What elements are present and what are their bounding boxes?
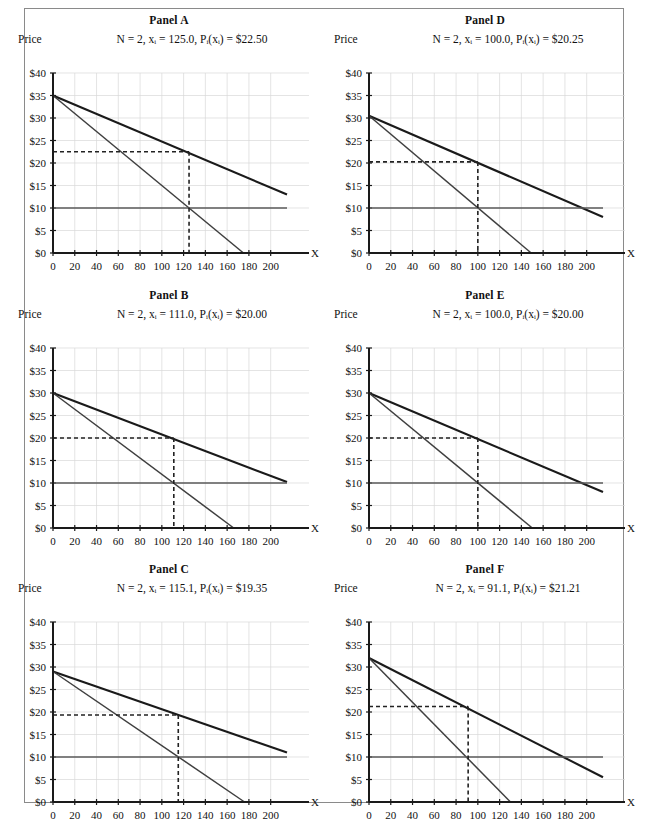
y-tick-label: $20 xyxy=(346,706,363,718)
plot-area: $40$35$30$25$20$15$10$5$0020406080100120… xyxy=(330,289,640,551)
x-tick-label: 20 xyxy=(69,809,81,821)
x-tick-label: 60 xyxy=(429,260,441,272)
x-tick-label: 160 xyxy=(535,260,552,272)
plot-area: $40$35$30$25$20$15$10$5$0020406080100120… xyxy=(330,14,640,276)
y-tick-label: $35 xyxy=(346,365,363,377)
x-tick-label: 0 xyxy=(366,535,372,547)
marginal-revenue-line xyxy=(369,116,531,253)
y-tick-label: $10 xyxy=(30,202,47,214)
x-tick-label: 0 xyxy=(366,260,372,272)
x-tick-label: 100 xyxy=(154,535,171,547)
panel-a: Panel AN = 2, xᵢ = 125.0, Pᵢ(xᵢ) = $22.5… xyxy=(14,14,324,276)
x-tick-label: 0 xyxy=(366,809,372,821)
x-tick-label: 100 xyxy=(470,535,487,547)
y-tick-label: $20 xyxy=(30,432,47,444)
y-tick-label: $10 xyxy=(346,751,363,763)
x-axis-title: X xyxy=(311,247,319,259)
x-tick-label: 200 xyxy=(262,535,279,547)
x-tick-label: 160 xyxy=(219,535,236,547)
x-tick-label: 180 xyxy=(557,809,574,821)
y-tick-label: $20 xyxy=(346,432,363,444)
x-tick-label: 40 xyxy=(91,809,103,821)
y-tick-label: $20 xyxy=(30,706,47,718)
x-tick-label: 120 xyxy=(491,809,508,821)
x-tick-label: 200 xyxy=(578,260,595,272)
x-tick-label: 140 xyxy=(197,260,214,272)
x-tick-label: 180 xyxy=(557,535,574,547)
x-tick-label: 60 xyxy=(429,809,441,821)
y-tick-label: $30 xyxy=(30,387,47,399)
x-tick-label: 80 xyxy=(135,260,147,272)
y-tick-label: $15 xyxy=(346,729,363,741)
x-tick-label: 140 xyxy=(513,260,530,272)
x-tick-label: 140 xyxy=(513,809,530,821)
x-tick-label: 140 xyxy=(197,809,214,821)
x-tick-label: 100 xyxy=(154,809,171,821)
x-tick-label: 200 xyxy=(578,535,595,547)
x-tick-label: 20 xyxy=(69,260,81,272)
plot-area: $40$35$30$25$20$15$10$5$0020406080100120… xyxy=(330,563,640,823)
x-tick-label: 160 xyxy=(535,535,552,547)
x-tick-label: 120 xyxy=(175,260,192,272)
y-tick-label: $40 xyxy=(346,67,363,79)
x-tick-label: 160 xyxy=(219,260,236,272)
x-tick-label: 20 xyxy=(385,809,397,821)
y-tick-label: $25 xyxy=(346,410,363,422)
y-tick-label: $30 xyxy=(346,387,363,399)
y-tick-label: $30 xyxy=(30,661,47,673)
x-tick-label: 0 xyxy=(50,260,56,272)
x-tick-label: 0 xyxy=(50,809,56,821)
y-tick-label: $0 xyxy=(35,247,47,259)
demand-line xyxy=(369,658,603,777)
x-tick-label: 180 xyxy=(557,260,574,272)
demand-line xyxy=(369,116,603,217)
x-tick-label: 100 xyxy=(470,260,487,272)
x-tick-label: 200 xyxy=(578,809,595,821)
y-tick-label: $5 xyxy=(35,225,47,237)
demand-line xyxy=(369,393,603,492)
plot-area: $40$35$30$25$20$15$10$5$0020406080100120… xyxy=(14,563,324,823)
y-tick-label: $15 xyxy=(30,729,47,741)
x-tick-label: 100 xyxy=(470,809,487,821)
x-axis-title: X xyxy=(627,247,635,259)
x-tick-label: 40 xyxy=(407,809,419,821)
x-axis-title: X xyxy=(627,796,635,808)
x-tick-label: 80 xyxy=(451,535,463,547)
x-tick-label: 120 xyxy=(491,535,508,547)
y-tick-label: $35 xyxy=(30,90,47,102)
marginal-revenue-line xyxy=(369,658,510,802)
y-tick-label: $25 xyxy=(346,684,363,696)
y-tick-label: $5 xyxy=(35,500,47,512)
y-tick-label: $30 xyxy=(346,112,363,124)
y-tick-label: $40 xyxy=(30,342,47,354)
x-tick-label: 40 xyxy=(91,535,103,547)
x-tick-label: 0 xyxy=(50,535,56,547)
plot-area: $40$35$30$25$20$15$10$5$0020406080100120… xyxy=(14,14,324,276)
y-tick-label: $5 xyxy=(351,225,363,237)
y-tick-label: $35 xyxy=(30,365,47,377)
x-axis-title: X xyxy=(311,522,319,534)
y-tick-label: $10 xyxy=(30,477,47,489)
x-tick-label: 80 xyxy=(135,809,147,821)
x-tick-label: 180 xyxy=(241,809,258,821)
x-tick-label: 120 xyxy=(491,260,508,272)
y-tick-label: $25 xyxy=(30,684,47,696)
x-tick-label: 80 xyxy=(135,535,147,547)
y-tick-label: $0 xyxy=(351,247,363,259)
y-tick-label: $10 xyxy=(346,202,363,214)
x-tick-label: 180 xyxy=(241,260,258,272)
y-tick-label: $0 xyxy=(35,522,47,534)
x-tick-label: 180 xyxy=(241,535,258,547)
x-tick-label: 20 xyxy=(385,535,397,547)
x-tick-label: 100 xyxy=(154,260,171,272)
y-tick-label: $40 xyxy=(30,67,47,79)
x-tick-label: 140 xyxy=(197,535,214,547)
x-axis-title: X xyxy=(627,522,635,534)
marginal-revenue-line xyxy=(53,672,245,803)
panel-c: Panel CN = 2, xᵢ = 115.1, Pᵢ(xᵢ) = $19.3… xyxy=(14,563,324,823)
y-tick-label: $5 xyxy=(35,774,47,786)
x-tick-label: 160 xyxy=(535,809,552,821)
plot-area: $40$35$30$25$20$15$10$5$0020406080100120… xyxy=(14,289,324,551)
x-tick-label: 200 xyxy=(262,260,279,272)
y-tick-label: $20 xyxy=(30,157,47,169)
